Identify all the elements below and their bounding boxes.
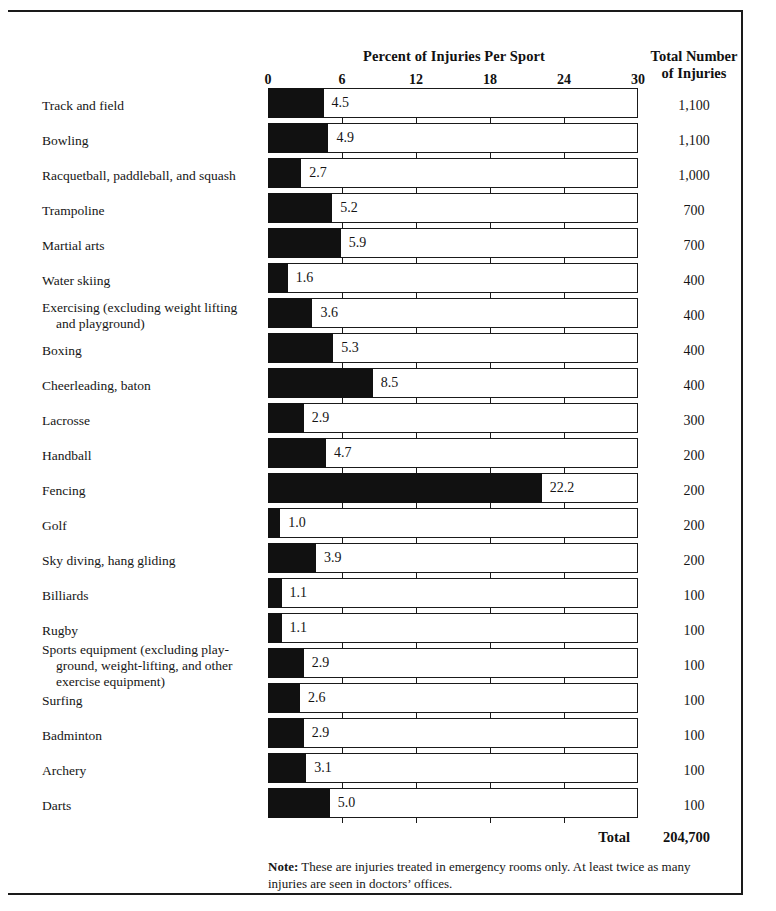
category-label: Badminton	[42, 728, 102, 744]
total-value: 100	[645, 648, 743, 683]
chart-note: Note: These are injuries treated in emer…	[268, 858, 730, 892]
bar-fill	[268, 578, 282, 608]
bar-value-label: 5.3	[341, 340, 359, 356]
totals-header-line1: Total Number	[645, 48, 743, 65]
bar-value-label: 2.7	[309, 165, 327, 181]
total-value: 100	[645, 753, 743, 788]
category-label: Bowling	[42, 133, 89, 149]
bar-fill	[268, 543, 316, 573]
total-value: 100	[645, 718, 743, 753]
bar-value-label: 22.2	[550, 480, 575, 496]
bar-track	[268, 578, 638, 608]
bar-fill	[268, 158, 301, 188]
category-label-line: Rugby	[42, 623, 78, 639]
bar-value-label: 5.2	[340, 200, 358, 216]
x-axis-tick-label: 24	[557, 72, 571, 88]
bar-fill	[268, 753, 306, 783]
bar-fill	[268, 718, 304, 748]
category-label-line: Lacrosse	[42, 413, 90, 429]
category-label-row: Martial arts	[42, 228, 264, 263]
category-label-line: Exercising (excluding weight lifting	[42, 300, 237, 316]
category-label-line: Boxing	[42, 343, 82, 359]
bar-fill	[268, 403, 304, 433]
note-prefix: Note:	[268, 859, 298, 874]
category-label: Golf	[42, 518, 67, 534]
category-label-line: Badminton	[42, 728, 102, 744]
category-label: Sports equipment (excluding play-ground,…	[42, 642, 233, 690]
category-label: Trampoline	[42, 203, 105, 219]
bar-fill	[268, 298, 312, 328]
category-label-line: Water skiing	[42, 273, 110, 289]
total-summary-value: 204,700	[630, 829, 743, 846]
x-axis-tick-label: 30	[631, 72, 645, 88]
bar-row: 2.9	[268, 648, 638, 678]
bar-fill	[268, 683, 300, 713]
bar-value-label: 5.0	[338, 795, 356, 811]
category-label-line: Archery	[42, 763, 86, 779]
total-value: 200	[645, 508, 743, 543]
category-label-line: Surfing	[42, 693, 83, 709]
category-label-line: Fencing	[42, 483, 86, 499]
bar-row: 5.9	[268, 228, 638, 258]
bar-row: 3.6	[268, 298, 638, 328]
category-label: Exercising (excluding weight liftingand …	[42, 300, 237, 332]
bar-value-label: 4.5	[332, 95, 350, 111]
bar-fill	[268, 123, 328, 153]
bar-value-label: 1.1	[290, 585, 308, 601]
total-value: 400	[645, 333, 743, 368]
category-label: Surfing	[42, 693, 83, 709]
category-label-row: Water skiing	[42, 263, 264, 298]
bar-value-label: 4.7	[334, 445, 352, 461]
category-label: Billiards	[42, 588, 89, 604]
category-label-line: Martial arts	[42, 238, 105, 254]
bar-fill	[268, 193, 332, 223]
category-label-row: Track and field	[42, 88, 264, 123]
category-label: Handball	[42, 448, 92, 464]
bar-fill	[268, 508, 280, 538]
bar-row: 22.2	[268, 473, 638, 503]
bar-value-label: 3.1	[314, 760, 332, 776]
bars-plot-area: 4.54.92.75.25.91.63.65.38.52.94.722.21.0…	[268, 88, 638, 823]
category-label-row: Bowling	[42, 123, 264, 158]
bar-row: 5.3	[268, 333, 638, 363]
bar-value-label: 2.6	[308, 690, 326, 706]
bar-fill	[268, 263, 288, 293]
bar-row: 8.5	[268, 368, 638, 398]
totals-column-header: Total Number of Injuries	[645, 48, 743, 82]
category-label: Water skiing	[42, 273, 110, 289]
bar-fill	[268, 228, 341, 258]
bar-row: 2.7	[268, 158, 638, 188]
totals-column: 1,1001,1001,0007007004004004004003002002…	[645, 88, 743, 823]
category-label-line: exercise equipment)	[42, 674, 233, 690]
total-summary-label: Total	[560, 829, 630, 846]
total-value: 1,000	[645, 158, 743, 193]
bar-value-label: 3.9	[324, 550, 342, 566]
bar-value-label: 1.1	[290, 620, 308, 636]
bar-value-label: 4.9	[336, 130, 354, 146]
bar-value-label: 3.6	[320, 305, 338, 321]
category-label-row: Golf	[42, 508, 264, 543]
x-axis: 0612182430	[268, 72, 638, 88]
total-value: 400	[645, 298, 743, 333]
x-axis-tick-mark	[342, 818, 343, 823]
bar-row: 1.1	[268, 578, 638, 608]
bar-value-label: 2.9	[312, 725, 330, 741]
category-label-line: and playground)	[42, 316, 237, 332]
bar-value-label: 2.9	[312, 655, 330, 671]
category-label-row: Racquetball, paddleball, and squash	[42, 158, 264, 193]
x-axis-tick-mark	[564, 818, 565, 823]
category-label-line: Handball	[42, 448, 92, 464]
bar-row: 2.9	[268, 718, 638, 748]
total-value: 700	[645, 193, 743, 228]
total-value: 700	[645, 228, 743, 263]
bar-track	[268, 263, 638, 293]
category-label-line: Sky diving, hang gliding	[42, 553, 176, 569]
note-text: These are injuries treated in emergency …	[268, 859, 691, 891]
x-axis-tick-mark	[416, 818, 417, 823]
category-label-row: Boxing	[42, 333, 264, 368]
bar-row: 5.0	[268, 788, 638, 818]
category-label: Archery	[42, 763, 86, 779]
bar-row: 1.0	[268, 508, 638, 538]
category-label-line: Billiards	[42, 588, 89, 604]
x-axis-tick-label: 0	[265, 72, 272, 88]
